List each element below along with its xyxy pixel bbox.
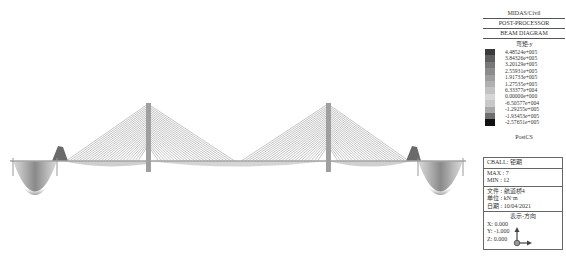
unit-label: 单位 : kN·m (487, 195, 559, 203)
axis-triad-icon (511, 226, 535, 250)
legend-value: -2.57651e+005 (505, 119, 539, 126)
date-label: 日期 : 10/04/2021 (487, 203, 559, 211)
legend-title-type: BEAM DIAGRAM (483, 29, 565, 39)
moment-sag-left (13, 161, 57, 195)
color-scale: 4.48524e+0053.84326e+0053.20129e+0052.55… (483, 49, 565, 126)
legend-title-module: POST-PROCESSOR (483, 19, 565, 29)
moment-peak-right (406, 146, 421, 161)
bridge-moment-diagram (0, 0, 470, 260)
legend-title-app: MIDAS/Civil (483, 0, 565, 19)
tower-right (326, 103, 331, 172)
legend: MIDAS/Civil POST-PROCESSOR BEAM DIAGRAM … (483, 0, 565, 141)
view-direction-title: 表示-方向 (487, 213, 559, 221)
min-label: MIN : 12 (487, 177, 559, 185)
load-case: CBALL: 钜期 (484, 158, 562, 169)
meta: 文件 : 航道桥4 单位 : kN·m 日期 : 10/04/2021 (484, 187, 562, 213)
moment-main-right (328, 161, 412, 167)
moment-sag-right (418, 161, 463, 195)
file-label: 文件 : 航道桥4 (487, 188, 559, 196)
moment-main-center (148, 161, 328, 167)
legend-swatch (485, 119, 495, 125)
legend-stage: PostCS (483, 134, 565, 141)
moment-peak-left (52, 146, 68, 161)
legend-header: MIDAS/Civil POST-PROCESSOR BEAM DIAGRAM (483, 0, 565, 39)
legend-component: 弯矩-y (483, 41, 565, 48)
max-min: MAX : 7 MIN : 12 (484, 169, 562, 187)
legend-scale-row: -2.57651e+005 (483, 119, 565, 125)
moment-main-left (63, 161, 148, 166)
tower-left (146, 103, 151, 172)
stay-cables (66, 104, 409, 161)
max-label: MAX : 7 (487, 170, 559, 178)
